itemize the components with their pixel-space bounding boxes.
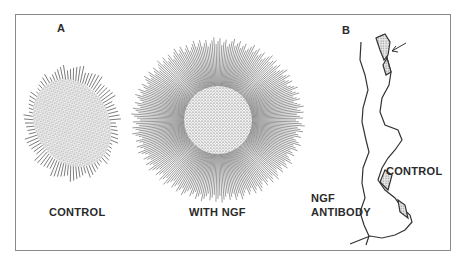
panel-b-letter: B	[342, 24, 350, 36]
panel-b-control-label: CONTROL	[386, 165, 442, 177]
ngf-antibody-label-line2: ANTIBODY	[311, 206, 371, 218]
ngf-antibody-label-line1: NGF	[311, 192, 335, 204]
panel-a-letter: A	[57, 22, 65, 34]
arrow-icon	[392, 43, 406, 52]
control-caption: CONTROL	[49, 206, 105, 218]
control-ganglion	[17, 65, 127, 182]
ngf-ganglion	[131, 37, 305, 202]
figure-illustration	[0, 0, 463, 266]
with-ngf-caption: WITH NGF	[189, 206, 246, 218]
